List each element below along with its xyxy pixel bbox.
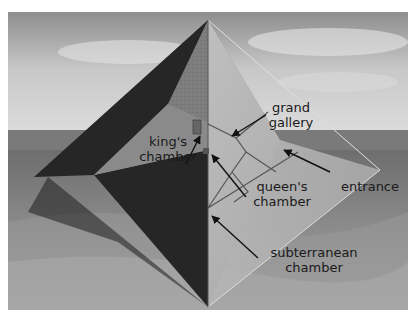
label-subterranean-line1: subterranean	[270, 245, 357, 260]
label-entrance-line1: entrance	[341, 179, 399, 194]
label-kings-chamber-line1: king's	[149, 134, 187, 149]
label-queens-chamber-line2: chamber	[253, 194, 311, 209]
label-grand-gallery-line2: gallery	[269, 115, 314, 130]
kings-chamber-mark	[193, 120, 201, 134]
label-queens-chamber-line1: queen's	[256, 179, 307, 194]
pyramid-diagram: grand gallery king's chamber queen's cha…	[8, 12, 408, 310]
label-grand-gallery: grand gallery	[269, 100, 314, 130]
queens-chamber-mark	[203, 148, 209, 154]
label-queens-chamber: queen's chamber	[253, 179, 311, 209]
label-entrance: entrance	[341, 179, 399, 194]
label-subterranean-line2: chamber	[285, 260, 343, 275]
label-kings-chamber-line2: chamber	[139, 149, 197, 164]
label-grand-gallery-line1: grand	[272, 100, 310, 115]
